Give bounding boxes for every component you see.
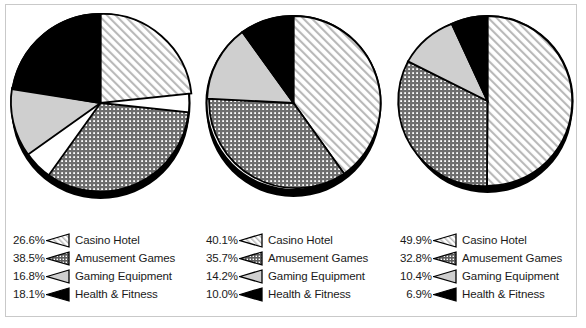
- legend-percent: 26.6%: [3, 234, 45, 246]
- legend-swatch-black-icon: [239, 287, 263, 302]
- legend-item-health-fitness[interactable]: 18.1% Health & Fitness: [3, 285, 198, 303]
- legend-label: Casino Hotel: [268, 234, 333, 246]
- pie-chart-figure: 26.6% Casino Hotel 38.5% Amusement Games…: [0, 0, 586, 328]
- legend-percent: 16.8%: [3, 270, 45, 282]
- pie-slice-casino-hotel: [101, 14, 192, 103]
- legend-swatch-black-icon: [46, 287, 70, 302]
- legend-item-casino-hotel[interactable]: 49.9% Casino Hotel: [390, 231, 585, 249]
- legend-label: Gaming Equipment: [268, 270, 365, 282]
- legend-percent: 49.9%: [390, 234, 432, 246]
- legend-percent: 18.1%: [3, 288, 45, 300]
- pie-svg-2: [196, 6, 391, 202]
- legend-item-health-fitness[interactable]: 10.0% Health & Fitness: [196, 285, 391, 303]
- legend-3: 49.9% Casino Hotel 32.8% Amusement Games…: [390, 231, 585, 303]
- legend-item-amusement-games[interactable]: 35.7% Amusement Games: [196, 249, 391, 267]
- legend-percent: 14.2%: [196, 270, 238, 282]
- legend-label: Amusement Games: [462, 252, 562, 264]
- legend-item-amusement-games[interactable]: 32.8% Amusement Games: [390, 249, 585, 267]
- legend-swatch-diagonal-hatch-icon: [433, 233, 457, 248]
- legend-label: Health & Fitness: [462, 288, 545, 300]
- legend-item-gaming-equipment[interactable]: 10.4% Gaming Equipment: [390, 267, 585, 285]
- legend-item-health-fitness[interactable]: 6.9% Health & Fitness: [390, 285, 585, 303]
- legend-label: Health & Fitness: [268, 288, 351, 300]
- pie-panel-3: 49.9% Casino Hotel 32.8% Amusement Games…: [390, 0, 585, 328]
- legend-percent: 32.8%: [390, 252, 432, 264]
- legend-label: Casino Hotel: [75, 234, 140, 246]
- pie-chart-2: [196, 6, 391, 202]
- pie-chart-3: [390, 6, 585, 202]
- panel-group: 26.6% Casino Hotel 38.5% Amusement Games…: [0, 0, 586, 328]
- legend-label: Amusement Games: [75, 252, 175, 264]
- legend-percent: 10.4%: [390, 270, 432, 282]
- legend-swatch-black-icon: [433, 287, 457, 302]
- legend-label: Gaming Equipment: [75, 270, 172, 282]
- pie-svg-1: [3, 6, 198, 202]
- legend-item-casino-hotel[interactable]: 26.6% Casino Hotel: [3, 231, 198, 249]
- pie-svg-3: [390, 6, 585, 202]
- legend-swatch-diagonal-hatch-icon: [239, 233, 263, 248]
- legend-swatch-cross-hatch-icon: [46, 251, 70, 266]
- legend-item-amusement-games[interactable]: 38.5% Amusement Games: [3, 249, 198, 267]
- legend-swatch-cross-hatch-icon: [239, 251, 263, 266]
- legend-label: Health & Fitness: [75, 288, 158, 300]
- legend-swatch-light-gray-icon: [46, 269, 70, 284]
- legend-label: Amusement Games: [268, 252, 368, 264]
- legend-label: Casino Hotel: [462, 234, 527, 246]
- legend-swatch-light-gray-icon: [239, 269, 263, 284]
- legend-swatch-light-gray-icon: [433, 269, 457, 284]
- legend-2: 40.1% Casino Hotel 35.7% Amusement Games…: [196, 231, 391, 303]
- pie-slice-health-fitness: [13, 14, 101, 103]
- pie-panel-1: 26.6% Casino Hotel 38.5% Amusement Games…: [3, 0, 198, 328]
- legend-label: Gaming Equipment: [462, 270, 559, 282]
- pie-chart-1: [3, 6, 198, 202]
- legend-item-gaming-equipment[interactable]: 16.8% Gaming Equipment: [3, 267, 198, 285]
- legend-item-gaming-equipment[interactable]: 14.2% Gaming Equipment: [196, 267, 391, 285]
- legend-percent: 35.7%: [196, 252, 238, 264]
- pie-panel-2: 40.1% Casino Hotel 35.7% Amusement Games…: [196, 0, 391, 328]
- legend-swatch-cross-hatch-icon: [433, 251, 457, 266]
- pie-slice-casino-hotel: [487, 16, 572, 186]
- legend-percent: 6.9%: [390, 288, 432, 300]
- legend-percent: 40.1%: [196, 234, 238, 246]
- legend-swatch-diagonal-hatch-icon: [46, 233, 70, 248]
- legend-1: 26.6% Casino Hotel 38.5% Amusement Games…: [3, 231, 198, 303]
- legend-item-casino-hotel[interactable]: 40.1% Casino Hotel: [196, 231, 391, 249]
- legend-percent: 38.5%: [3, 252, 45, 264]
- legend-percent: 10.0%: [196, 288, 238, 300]
